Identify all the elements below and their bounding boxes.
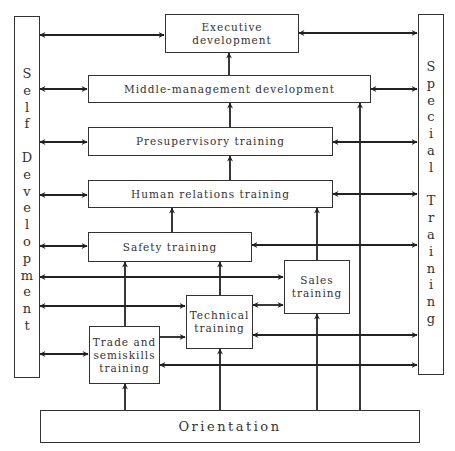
safety-label: Safety training bbox=[123, 241, 218, 254]
human-relations-label: Human relations training bbox=[131, 188, 290, 201]
training-flow-diagram: S e l f D e v e l o p m e n t S p e c i … bbox=[0, 0, 455, 451]
node-middle-management: Middle-management development bbox=[88, 75, 371, 103]
presupervisory-label: Presupervisory training bbox=[136, 135, 285, 148]
node-executive-development: Executive development bbox=[165, 14, 299, 53]
sales-line-2: training bbox=[292, 287, 342, 300]
orientation-label: Orientation bbox=[178, 420, 281, 433]
node-presupervisory: Presupervisory training bbox=[88, 127, 333, 156]
node-safety: Safety training bbox=[88, 232, 252, 262]
special-training-panel: S p e c i a l T r a i n i n g bbox=[418, 14, 444, 375]
trade-line-1: Trade and bbox=[93, 336, 156, 349]
node-sales: Sales training bbox=[284, 260, 350, 314]
sales-line-1: Sales bbox=[300, 274, 333, 287]
node-trade-semiskills: Trade and semiskills training bbox=[89, 326, 160, 384]
node-human-relations: Human relations training bbox=[88, 180, 333, 208]
connector-lines bbox=[0, 0, 455, 451]
self-development-panel: S e l f D e v e l o p m e n t bbox=[14, 16, 40, 378]
technical-line-2: training bbox=[194, 322, 244, 335]
executive-line-2: development bbox=[192, 34, 272, 47]
node-orientation: Orientation bbox=[40, 410, 420, 443]
trade-line-2: semiskills bbox=[93, 349, 155, 362]
node-technical: Technical training bbox=[186, 295, 253, 349]
technical-line-1: Technical bbox=[190, 309, 250, 322]
trade-line-3: training bbox=[99, 362, 149, 375]
self-development-label: S e l f D e v e l o p m e n t bbox=[15, 66, 39, 335]
middle-management-label: Middle-management development bbox=[124, 83, 335, 96]
executive-line-1: Executive bbox=[201, 21, 262, 34]
special-training-label: S p e c i a l T r a i n i n g bbox=[419, 59, 443, 328]
